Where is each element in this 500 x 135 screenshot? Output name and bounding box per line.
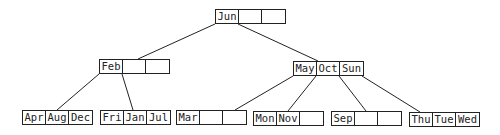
key: Dec [69, 111, 92, 124]
key: Sep [332, 112, 355, 125]
key: Mon [254, 112, 277, 125]
key: May [294, 62, 317, 75]
edge-root-may [238, 24, 318, 61]
key: Jan [124, 111, 147, 124]
node-mar: Mar [176, 110, 247, 125]
key: Thu [410, 113, 433, 126]
key: Fri [101, 111, 124, 124]
node-may: May Oct Sun [293, 61, 364, 76]
key: Jul [147, 111, 170, 124]
edge-may-thu [362, 76, 420, 112]
key: Oct [317, 62, 340, 75]
edge-root-feb [138, 24, 215, 59]
node-feb: Feb [99, 59, 170, 74]
key [355, 112, 378, 125]
edge-may-mar [235, 76, 293, 110]
key [223, 111, 246, 124]
key [300, 112, 323, 125]
edge-may-sep [339, 76, 366, 111]
key [239, 10, 262, 23]
key [378, 112, 401, 125]
node-thu: Thu Tue Wed [409, 112, 480, 127]
key: Feb [100, 60, 123, 73]
key: Nov [277, 112, 300, 125]
node-fri: Fri Jan Jul [100, 110, 171, 125]
node-mon: Mon Nov [253, 111, 324, 126]
edge-may-mon [288, 76, 316, 111]
key: Sun [340, 62, 363, 75]
key: Aug [46, 111, 69, 124]
key [123, 60, 146, 73]
key: Wed [456, 113, 479, 126]
edge-feb-fri [122, 74, 133, 110]
key [262, 10, 285, 23]
key: Mar [177, 111, 200, 124]
edge-feb-apr [57, 74, 99, 110]
key: Jun [216, 10, 239, 23]
node-root: Jun [215, 9, 286, 24]
key: Apr [23, 111, 46, 124]
key [146, 60, 169, 73]
key [200, 111, 223, 124]
node-sep: Sep [331, 111, 402, 126]
node-apr: Apr Aug Dec [22, 110, 93, 125]
key: Tue [433, 113, 456, 126]
